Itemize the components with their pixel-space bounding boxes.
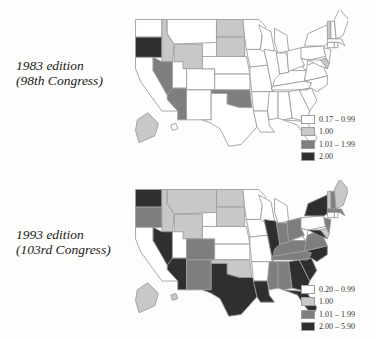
state-nd [216,20,244,38]
state-wa [136,20,162,38]
state-or [136,37,162,57]
legend-label: 0.17 – 0.99 [319,115,355,124]
state-mi [275,28,289,53]
legend-label: 1.01 – 1.99 [319,140,355,149]
legend-item: 2.00 [301,151,375,163]
state-pa [301,216,326,230]
state-or [136,207,162,227]
legend-swatch [301,152,315,161]
legend-item: 1.01 – 1.99 [301,138,375,150]
state-ct [327,42,334,47]
legend-item: 1.00 [301,296,375,308]
state-ks [215,244,250,260]
legend-swatch [301,140,315,149]
state-me [334,10,348,39]
panel-label: 1983 edition (98th Congress) [16,58,103,88]
edition-title: 1993 edition [16,227,111,242]
state-wa [136,190,162,208]
legend-label: 2.00 – 5.90 [319,322,355,331]
state-mt [167,20,216,45]
legend-swatch [301,310,315,319]
legend-item: 1.00 [301,126,375,138]
state-ri [334,42,338,47]
state-pa [301,46,326,60]
state-ak [136,113,159,143]
state-sd [216,37,244,56]
state-ms [268,262,279,290]
edition-title: 1983 edition [16,58,103,73]
legend-item: 1.01 – 1.99 [301,308,375,320]
state-ri [334,212,338,217]
state-vt [327,21,331,39]
state-ny [304,25,329,46]
panel-label: 1993 edition (103rd Congress) [16,227,111,257]
state-ny [304,195,329,216]
state-sd [216,207,244,226]
legend-label: 1.00 [319,127,333,136]
state-me [334,180,348,209]
legend-item: 0.17 – 0.99 [301,113,375,125]
map-legend: 0.17 – 0.991.001.01 – 1.992.00 [301,113,375,163]
legend-item: 0.20 – 0.99 [301,283,375,295]
map-panel-1993: 1993 edition (103rd Congress) 0.20 – 0.9… [0,170,375,340]
state-hi [171,123,178,130]
state-co [187,69,215,90]
map-panel-1983: 1983 edition (98th Congress) 0.17 – 0.99… [0,0,375,170]
legend-swatch [301,115,315,124]
state-ks [215,74,250,90]
legend-swatch [301,322,315,331]
state-vt [327,191,331,209]
state-nm [187,260,212,290]
legend-label: 0.20 – 0.99 [319,285,355,294]
state-mt [167,190,216,215]
state-nm [187,90,212,120]
state-ct [327,212,334,217]
legend-label: 1.01 – 1.99 [319,310,355,319]
map-legend: 0.20 – 0.991.001.01 – 1.992.00 – 5.90 [301,283,375,333]
legend-label: 2.00 [319,152,333,161]
state-hi [171,293,178,300]
state-co [187,239,215,260]
legend-swatch [301,127,315,136]
state-ms [268,92,279,120]
state-nd [216,190,244,208]
state-ak [136,283,159,313]
legend-swatch [301,297,315,306]
legend-label: 1.00 [319,297,333,306]
edition-subtitle: (103rd Congress) [16,242,111,257]
state-mi [275,198,289,223]
legend-item: 2.00 – 5.90 [301,321,375,333]
edition-subtitle: (98th Congress) [16,73,103,88]
legend-swatch [301,285,315,294]
